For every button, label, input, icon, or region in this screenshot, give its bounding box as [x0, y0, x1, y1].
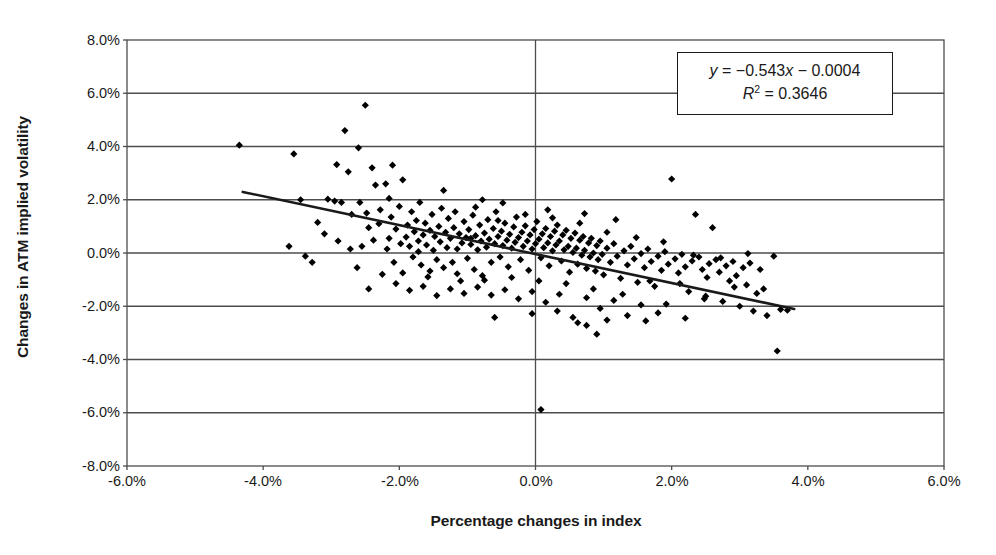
data-point-marker	[719, 298, 726, 305]
data-point-marker	[435, 223, 442, 230]
data-point-marker	[733, 272, 740, 279]
data-point-marker	[624, 261, 631, 268]
data-point-marker	[363, 209, 370, 216]
data-point-marker	[440, 264, 447, 271]
data-point-marker	[392, 280, 399, 287]
data-point-marker	[345, 168, 352, 175]
data-point-marker	[406, 287, 413, 294]
data-point-marker	[392, 225, 399, 232]
data-point-marker	[542, 299, 549, 306]
data-point-marker	[654, 309, 661, 316]
data-point-marker	[682, 263, 689, 270]
data-point-marker	[648, 258, 655, 265]
r2-symbol: R	[743, 86, 755, 103]
data-point-marker	[479, 196, 486, 203]
r2-value: = 0.3646	[760, 86, 827, 103]
data-point-marker	[576, 220, 583, 227]
data-point-marker	[449, 259, 456, 266]
data-point-marker	[665, 261, 672, 268]
data-point-marker	[365, 285, 372, 292]
data-point-marker	[383, 245, 390, 252]
data-point-marker	[454, 270, 461, 277]
data-point-marker	[726, 277, 733, 284]
data-point-marker	[554, 307, 561, 314]
data-point-marker	[583, 294, 590, 301]
data-point-marker	[522, 211, 529, 218]
data-point-marker	[520, 243, 527, 250]
data-point-marker	[685, 288, 692, 295]
data-point-marker	[539, 230, 546, 237]
data-point-marker	[297, 196, 304, 203]
data-point-marker	[610, 240, 617, 247]
data-point-marker	[362, 102, 369, 109]
data-point-marker	[415, 237, 422, 244]
data-point-marker	[740, 264, 747, 271]
data-point-marker	[458, 239, 465, 246]
data-point-marker	[501, 286, 508, 293]
data-point-marker	[581, 210, 588, 217]
data-point-marker	[481, 229, 488, 236]
data-point-marker	[341, 127, 348, 134]
data-point-marker	[658, 267, 665, 274]
data-point-marker	[682, 315, 689, 322]
data-point-marker	[753, 290, 760, 297]
data-point-marker	[518, 229, 525, 236]
eq-operator: = −0.543	[718, 62, 786, 79]
data-point-marker	[671, 255, 678, 262]
data-point-marker	[760, 285, 767, 292]
data-point-marker	[517, 256, 524, 263]
data-point-marker	[377, 206, 384, 213]
data-point-marker	[491, 314, 498, 321]
data-point-marker	[314, 219, 321, 226]
data-point-marker	[321, 230, 328, 237]
data-point-marker	[406, 243, 413, 250]
data-point-marker	[403, 233, 410, 240]
data-point-marker	[501, 220, 508, 227]
data-point-marker	[452, 208, 459, 215]
data-point-marker	[533, 218, 540, 225]
data-point-marker	[437, 238, 444, 245]
data-point-marker	[399, 269, 406, 276]
data-point-marker	[610, 297, 617, 304]
data-point-marker	[526, 231, 533, 238]
data-point-marker	[386, 235, 393, 242]
data-point-marker	[465, 226, 472, 233]
data-point-marker	[709, 224, 716, 231]
data-point-marker	[334, 237, 341, 244]
data-point-marker	[486, 236, 493, 243]
data-point-marker	[347, 245, 354, 252]
data-point-marker	[544, 239, 551, 246]
data-point-marker	[355, 144, 362, 151]
data-point-marker	[476, 221, 483, 228]
data-point-marker	[440, 187, 447, 194]
data-point-marker	[450, 224, 457, 231]
data-point-marker	[460, 290, 467, 297]
data-point-marker	[418, 261, 425, 268]
regression-equation-line: y = −0.543x − 0.0004	[686, 59, 884, 82]
data-point-marker	[490, 225, 497, 232]
data-point-marker	[499, 199, 506, 206]
data-point-marker	[599, 251, 606, 258]
data-point-marker	[631, 255, 638, 262]
data-point-marker	[460, 218, 467, 225]
data-point-marker	[542, 225, 549, 232]
data-point-marker	[729, 258, 736, 265]
data-point-marker	[424, 273, 431, 280]
data-point-marker	[774, 347, 781, 354]
data-point-marker	[688, 257, 695, 264]
data-point-marker	[388, 213, 395, 220]
data-point-marker	[723, 262, 730, 269]
data-point-marker	[661, 248, 668, 255]
data-point-marker	[699, 266, 706, 273]
data-points-group	[236, 102, 791, 414]
data-point-marker	[389, 162, 396, 169]
data-point-marker	[370, 237, 377, 244]
data-point-marker	[595, 256, 602, 263]
data-point-marker	[731, 283, 738, 290]
data-point-marker	[413, 217, 420, 224]
data-point-marker	[415, 248, 422, 255]
data-point-marker	[508, 274, 515, 281]
data-point-marker	[488, 259, 495, 266]
data-point-marker	[524, 237, 531, 244]
data-point-marker	[603, 229, 610, 236]
